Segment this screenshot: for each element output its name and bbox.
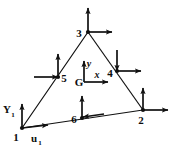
node-4-arrows <box>117 50 141 71</box>
axis-labels: G x y <box>75 58 100 88</box>
centroid-label-g: G <box>75 76 84 88</box>
node-6-arrows <box>82 96 104 118</box>
diagram-canvas: 1 2 3 4 5 6 G x y Y 1 u 1 <box>0 0 173 146</box>
node-label-2: 2 <box>138 114 144 126</box>
local-axis-y-label: y <box>86 58 92 69</box>
node-label-1: 1 <box>13 131 19 143</box>
dof-label-u1-subscript: 1 <box>38 139 42 146</box>
node-label-6: 6 <box>71 113 77 125</box>
finite-element-diagram: 1 2 3 4 5 6 G x y Y 1 u 1 <box>0 0 173 146</box>
dof-label-u1-base: u <box>31 132 37 144</box>
node-label-4: 4 <box>107 67 113 79</box>
local-axis-x-label: x <box>94 69 100 80</box>
node-1-arrow-right <box>22 125 48 128</box>
dof-label-Y1-subscript: 1 <box>11 111 15 119</box>
node-2-arrows <box>143 88 168 110</box>
node-3-arrows <box>88 8 112 32</box>
dof-label-Y1-base: Y <box>3 103 11 115</box>
node-5-arrows <box>34 54 58 77</box>
node-label-5: 5 <box>61 72 67 84</box>
node-label-3: 3 <box>76 27 82 39</box>
